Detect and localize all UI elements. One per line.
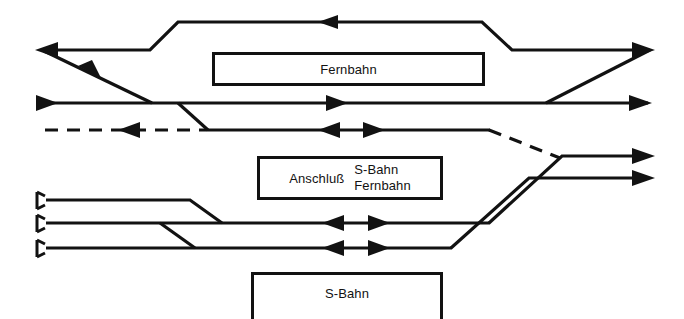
buffer-stop-lower — [37, 240, 45, 257]
arrow-left-dashed — [118, 122, 140, 138]
mid-lower-diagonal-path — [178, 103, 208, 130]
arrow-left-upper-crest — [318, 15, 338, 29]
arrow-right-sbahn-lower — [368, 240, 390, 256]
buffer-stop-top — [37, 192, 45, 209]
fernbahn-lower-track — [45, 122, 490, 138]
arrow-left-sbahn-middle — [322, 215, 344, 231]
railway-diagram: Fernbahn Anschluß S-Bahn Fernbahn S-Bahn — [0, 0, 684, 319]
label-anschluss-fernbahn: Fernbahn — [354, 178, 410, 194]
arrow-right-sbahn-middle — [368, 215, 390, 231]
label-fernbahn: Fernbahn — [215, 62, 482, 77]
arrow-right-middle-interior — [326, 95, 348, 111]
sbahn-stub-path — [46, 200, 222, 223]
fernbahn-upper-path — [42, 22, 648, 50]
right-diagonal-path — [546, 50, 650, 103]
sbahn-diagonal-path — [160, 223, 195, 248]
arrow-right-edge-sbahn-lower-terminal — [632, 170, 655, 186]
middle-to-lower-diagonal-left — [178, 103, 208, 130]
right-crossover-sbahn — [451, 148, 655, 248]
label-box-anschluss: Anschluß S-Bahn Fernbahn — [257, 156, 443, 200]
arrow-right-edge-left-middle — [36, 95, 58, 111]
anschluss-dashed-diagonal — [489, 130, 560, 158]
sbahn-right-lower-diagonal — [451, 178, 648, 248]
arrow-left-sbahn-lower — [322, 240, 344, 256]
buffer-stop-middle — [37, 215, 45, 232]
arrow-right-edge-middle — [629, 95, 652, 111]
anschluss-dashed-path — [489, 130, 560, 158]
sbahn-lower-track — [37, 240, 452, 257]
label-box-fernbahn: Fernbahn — [212, 52, 485, 86]
label-anschluss-systems: S-Bahn Fernbahn — [354, 162, 410, 195]
sbahn-middle-track — [37, 215, 490, 232]
label-sbahn: S-Bahn — [254, 286, 440, 301]
label-box-sbahn: S-Bahn — [251, 272, 443, 319]
arrow-left-lower-interior — [318, 122, 340, 138]
arrow-left-edge-sbahn-upper-terminal — [632, 148, 655, 164]
arrow-right-lower-interior — [363, 122, 385, 138]
sbahn-right-upper-diagonal — [489, 156, 648, 223]
sbahn-top-stub-track — [37, 192, 222, 223]
left-crossover-diagonal — [44, 51, 152, 103]
label-anschluss-sbahn: S-Bahn — [354, 162, 398, 178]
left-diagonal-path — [44, 51, 152, 103]
arrow-right-edge-upper — [632, 42, 655, 58]
label-anschluss: Anschluß — [289, 171, 344, 186]
sbahn-middle-lower-diagonal — [160, 223, 195, 248]
